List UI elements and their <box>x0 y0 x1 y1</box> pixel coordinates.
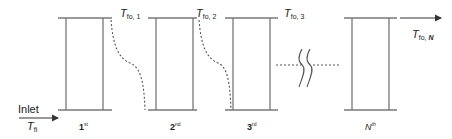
diagram-canvas <box>0 0 452 139</box>
stage-1-label: 1st <box>79 122 88 132</box>
stage-2-box <box>148 18 197 110</box>
stage-2-outlet-temperature: Tfo, 2 <box>196 8 216 20</box>
stage-3-label: 3rd <box>247 122 256 132</box>
stage-1-box <box>58 18 112 110</box>
stage-n-label: Nth <box>365 122 376 132</box>
temperature-profile-curve-1 <box>111 20 145 110</box>
stage-n-box <box>344 18 397 110</box>
stage-1-outlet-temperature: Tfo, 1 <box>120 8 140 20</box>
series-break-icon <box>276 49 340 87</box>
inlet-label: Inlet <box>18 104 39 115</box>
stage-2-label: 2nd <box>170 122 181 132</box>
stage-3-outlet-temperature: Tfo, 3 <box>284 8 304 20</box>
final-outlet-temperature: Tfo, N <box>412 29 434 41</box>
temperature-profile-curve-2 <box>199 20 231 110</box>
stage-3-box <box>225 18 278 110</box>
inlet-temperature-label: Tfi <box>27 121 37 133</box>
